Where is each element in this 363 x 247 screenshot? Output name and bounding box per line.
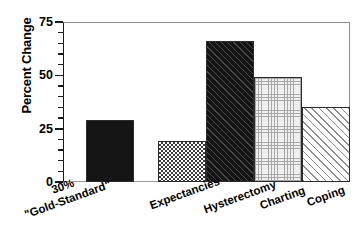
y-axis-major-tick bbox=[55, 75, 63, 77]
x-axis-label: Coping bbox=[305, 183, 347, 209]
y-axis-minor-tick bbox=[58, 160, 63, 162]
y-axis-minor-tick bbox=[58, 107, 63, 109]
y-axis-major-tick bbox=[55, 21, 63, 23]
y-axis-tick-label: 50 bbox=[0, 69, 53, 82]
y-axis-minor-tick bbox=[58, 85, 63, 87]
y-axis-minor-tick bbox=[58, 53, 63, 55]
y-axis-minor-tick bbox=[58, 149, 63, 151]
y-axis-minor-tick bbox=[58, 171, 63, 173]
bar bbox=[254, 77, 302, 182]
y-axis-minor-tick bbox=[58, 117, 63, 119]
bar bbox=[158, 141, 206, 182]
bar bbox=[302, 107, 350, 182]
y-axis-minor-tick bbox=[58, 64, 63, 66]
y-axis-tick-label: 75 bbox=[0, 16, 53, 29]
y-axis-minor-tick bbox=[58, 96, 63, 98]
y-axis-minor-tick bbox=[58, 32, 63, 34]
y-axis-minor-tick bbox=[58, 43, 63, 45]
y-axis-tick-label: 25 bbox=[0, 123, 53, 136]
bar bbox=[206, 41, 254, 182]
bar-chart: Percent Change 0255075 30%"Gold-Standard… bbox=[0, 0, 363, 247]
y-axis-major-tick bbox=[55, 128, 63, 130]
y-axis-minor-tick bbox=[58, 139, 63, 141]
